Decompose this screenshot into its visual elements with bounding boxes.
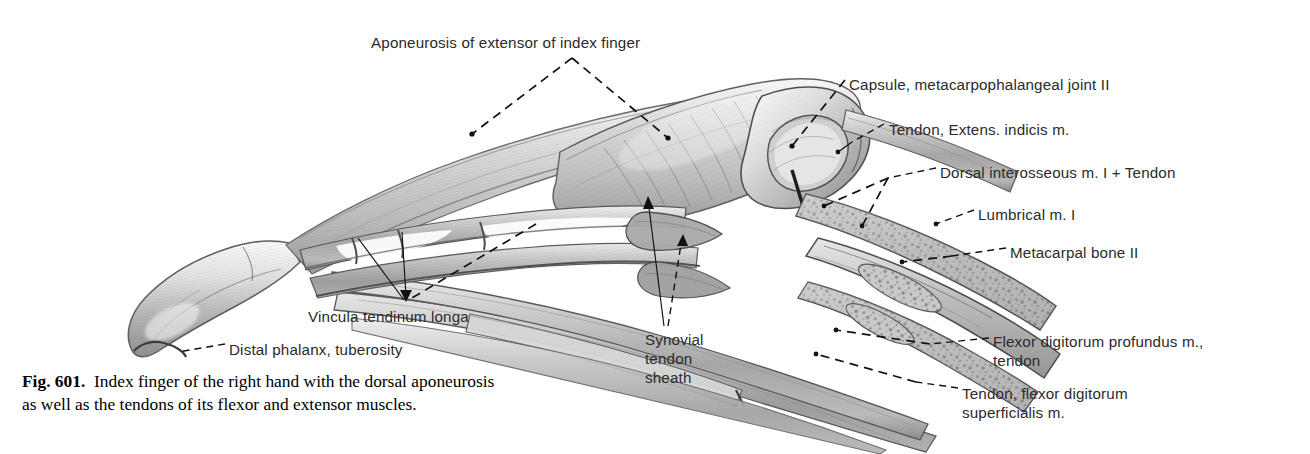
label-lumbrical-1: Lumbrical m. I — [978, 205, 1075, 224]
label-tendon-flexor-digitorum-superficialis: Tendon, flexor digitorum superficialis m… — [962, 384, 1128, 422]
figure-caption: Fig. 601. Index finger of the right hand… — [22, 370, 662, 416]
label-vincula-tendinum-longa: Vincula tendinum longa — [308, 307, 469, 326]
label-aponeurosis-extensor-index: Aponeurosis of extensor of index finger — [371, 33, 640, 52]
metacarpal-bone-and-interossei — [796, 194, 1060, 412]
leader-aponeurosis-left — [472, 58, 572, 134]
caption-line-1: Index finger of the right hand with the … — [94, 371, 494, 391]
leader-distal-phalanx — [178, 344, 225, 352]
label-distal-phalanx-tuberosity: Distal phalanx, tuberosity — [229, 340, 403, 359]
label-tendon-extensor-indicis: Tendon, Extens. indicis m. — [889, 120, 1069, 139]
figure-number: Fig. 601. — [22, 371, 85, 391]
leader-fds — [916, 382, 958, 388]
label-metacarpal-bone-2: Metacarpal bone II — [1010, 243, 1139, 262]
leader-lumbrical — [936, 210, 974, 224]
label-flexor-digitorum-profundus-tendon: Flexor digitorum profundus m., tendon — [993, 332, 1203, 370]
label-capsule-mcp-joint-2: Capsule, metacarpophalangeal joint II — [849, 75, 1110, 94]
anatomical-plate: Aponeurosis of extensor of index finger … — [0, 0, 1310, 454]
label-dorsal-interosseous-1-tendon: Dorsal interosseous m. I + Tendon — [940, 163, 1176, 182]
leader-dorsal-interosseous — [888, 168, 936, 178]
caption-line-2: as well as the tendons of its flexor and… — [22, 394, 417, 414]
